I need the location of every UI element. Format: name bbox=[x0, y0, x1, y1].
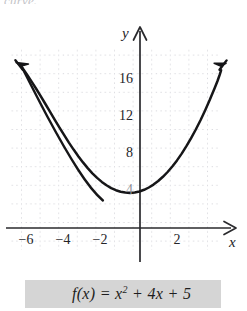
x-tick-label--6: −6 bbox=[11, 232, 41, 248]
formula-caption-box: f(x) = x2 + 4x + 5 bbox=[25, 280, 221, 308]
y-tick-label-16: 16 bbox=[105, 71, 133, 87]
x-tick-label--4: −4 bbox=[48, 232, 78, 248]
x-tick-label-2: 2 bbox=[162, 232, 192, 248]
y-tick-label-8: 8 bbox=[105, 145, 133, 161]
y-tick-label-12: 12 bbox=[105, 108, 133, 124]
x-axis-label: x bbox=[229, 234, 236, 251]
y-axis-label: y bbox=[122, 25, 129, 42]
x-tick-label--2: −2 bbox=[85, 232, 115, 248]
parabola-plot bbox=[0, 12, 247, 262]
formula-text: f(x) = x2 + 4x + 5 bbox=[55, 266, 191, 311]
y-tick-label-4: 4 bbox=[105, 182, 133, 198]
cut-off-text-fragment: curve. bbox=[4, 0, 64, 4]
formula-rhs: + 4x + 5 bbox=[128, 286, 191, 303]
graph-figure: y x −6 −4 −2 2 16 12 8 4 bbox=[0, 12, 247, 262]
formula-lhs: f(x) = x bbox=[72, 286, 123, 303]
